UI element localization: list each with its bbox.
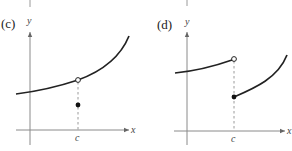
panel-d-right-curve xyxy=(234,55,287,97)
panel-d-y-label: y xyxy=(184,16,190,27)
panel-d-filled-point xyxy=(232,95,237,100)
panel-c: (c) y x c xyxy=(1,15,136,145)
panel-d-x-label: x xyxy=(286,125,292,136)
panel-d-left-curve xyxy=(175,60,232,73)
panel-d: (d) y x c xyxy=(157,16,292,145)
panel-d-label: (d) xyxy=(157,17,172,32)
panel-c-c-label: c xyxy=(75,132,80,143)
figure-canvas: (c) y x c (d) y x c xyxy=(0,0,292,151)
panel-c-curve xyxy=(16,36,129,94)
panel-d-c-label: c xyxy=(231,133,236,144)
panel-d-open-point xyxy=(232,57,237,62)
panel-c-label: (c) xyxy=(1,16,15,31)
panel-c-y-label: y xyxy=(26,15,32,26)
panel-c-x-label: x xyxy=(130,124,136,135)
panel-c-filled-point xyxy=(76,103,81,108)
panel-c-open-point xyxy=(76,78,81,83)
